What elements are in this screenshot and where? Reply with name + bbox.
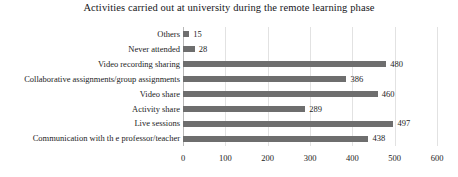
bar-row[interactable]: 15 — [183, 27, 437, 42]
bar-row[interactable]: 28 — [183, 42, 437, 57]
category-label: Communication with th e professor/teache… — [33, 131, 180, 146]
x-tick-label: 400 — [346, 154, 359, 163]
x-tick-label: 100 — [219, 154, 232, 163]
bar[interactable] — [183, 106, 305, 112]
x-axis: 0100200300400500600 — [183, 146, 437, 170]
category-label: Live sessions — [134, 116, 180, 131]
category-label: Video recording sharing — [98, 57, 180, 72]
category-label: Never attended — [128, 42, 180, 57]
bar-value-label: 460 — [382, 90, 395, 99]
bar[interactable] — [183, 76, 346, 82]
category-axis-labels: OthersNever attendedVideo recording shar… — [0, 27, 180, 146]
x-tick-label: 500 — [388, 154, 401, 163]
bar-row[interactable]: 480 — [183, 57, 437, 72]
bar-chart: Activities carried out at university dur… — [0, 0, 458, 177]
bar-value-label: 497 — [397, 119, 410, 128]
bar-row[interactable]: 289 — [183, 101, 437, 116]
bar-rows: 1528480386460289497438 — [183, 27, 437, 146]
x-tick-label: 300 — [304, 154, 317, 163]
bar-value-label: 438 — [372, 134, 385, 143]
x-tick-label: 0 — [181, 154, 185, 163]
category-label: Video share — [140, 87, 180, 102]
x-tick-label: 200 — [261, 154, 274, 163]
gridline — [437, 27, 438, 146]
bar[interactable] — [183, 46, 195, 52]
bar[interactable] — [183, 136, 368, 142]
bar-value-label: 28 — [199, 45, 208, 54]
bar[interactable] — [183, 31, 189, 37]
category-label: Activity share — [132, 101, 180, 116]
bar-value-label: 386 — [350, 75, 363, 84]
category-label: Others — [157, 27, 180, 42]
bar-row[interactable]: 438 — [183, 131, 437, 146]
x-tick-label: 600 — [431, 154, 444, 163]
bar-value-label: 289 — [309, 105, 322, 114]
bar[interactable] — [183, 61, 386, 67]
plot-area: 1528480386460289497438 — [183, 27, 437, 146]
category-label: Collaborative assignments/group assignme… — [24, 72, 180, 87]
bar-value-label: 480 — [390, 60, 403, 69]
bar-row[interactable]: 386 — [183, 72, 437, 87]
chart-title: Activities carried out at university dur… — [0, 2, 458, 13]
bar-row[interactable]: 460 — [183, 87, 437, 102]
bar[interactable] — [183, 121, 393, 127]
bar[interactable] — [183, 91, 378, 97]
bar-value-label: 15 — [193, 30, 202, 39]
bar-row[interactable]: 497 — [183, 116, 437, 131]
